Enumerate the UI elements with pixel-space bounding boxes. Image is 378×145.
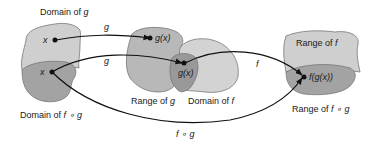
label-range-of-f-of-g: Range of f ∘ g (292, 104, 350, 114)
arrow-label-f: f (256, 59, 260, 69)
composite-function-diagram: x x g(x) g(x) f(g(x)) g g f f ∘ g Domain… (0, 0, 378, 145)
label-x-top: x (42, 35, 48, 45)
domain-of-f-of-g-region (22, 61, 76, 101)
arrow-label-g-bottom: g (104, 56, 109, 66)
label-domain-of-f-of-g: Domain of f ∘ g (20, 110, 82, 120)
label-domain-of-f: Domain of f (188, 96, 236, 106)
point-gx-mid (182, 61, 187, 66)
point-gx-top (148, 36, 153, 41)
label-fgx: f(g(x)) (309, 72, 333, 82)
point-x-top (53, 38, 58, 43)
label-range-of-f: Range of f (296, 38, 339, 48)
arrow-label-f-of-g: f ∘ g (176, 129, 195, 139)
label-range-of-g: Range of g (131, 96, 175, 106)
label-x-bottom: x (39, 67, 45, 77)
label-gx-top: g(x) (155, 33, 171, 43)
point-fgx (302, 75, 307, 80)
label-gx-mid: g(x) (178, 68, 194, 78)
arrow-label-g-top: g (104, 22, 109, 32)
point-x-bottom (50, 70, 55, 75)
label-domain-of-g: Domain of g (40, 7, 89, 17)
